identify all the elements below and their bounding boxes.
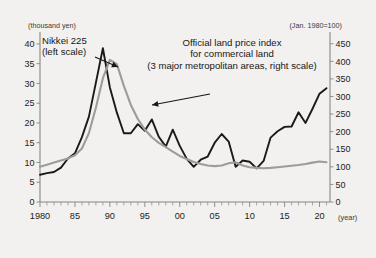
right-axis-tick-label: 150 (336, 144, 351, 154)
left-axis-tick-label: 40 (24, 39, 34, 49)
x-axis-tick-label: 20 (314, 211, 324, 221)
right-axis-tick-label: 300 (336, 92, 351, 102)
x-axis-unit-label: (year) (338, 213, 357, 222)
right-axis-unit-label: (Jan. 1980=100) (289, 21, 342, 30)
right-axis-tick-label: 100 (336, 162, 351, 172)
left-axis-unit-label: (thousand yen) (28, 21, 76, 30)
left-axis-tick-label: 35 (24, 59, 34, 69)
right-axis-tick-label: 350 (336, 74, 351, 84)
x-axis-tick-label: 1980 (30, 211, 50, 221)
left-axis-tick-label: 0 (29, 197, 34, 207)
x-axis-tick-label: 00 (175, 211, 185, 221)
left-axis-tick-label: 5 (29, 177, 34, 187)
x-axis-tick-label: 15 (279, 211, 289, 221)
right-axis-tick-label: 50 (336, 180, 346, 190)
right-axis-tick-label: 400 (336, 57, 351, 67)
right-axis-tick-label: 0 (336, 197, 341, 207)
chart-figure: 0510152025303540050100150200250300350400… (0, 0, 376, 258)
land-price-nikkei-chart: 0510152025303540050100150200250300350400… (0, 0, 376, 258)
annotation-label: (3 major metropolitan areas, right scale… (147, 60, 317, 71)
left-axis-tick-label: 30 (24, 79, 34, 89)
left-axis-tick-label: 25 (24, 98, 34, 108)
x-axis-tick-label: 85 (70, 211, 80, 221)
right-axis-tick-label: 450 (336, 39, 351, 49)
left-axis-tick-label: 20 (24, 118, 34, 128)
left-axis-tick-label: 10 (24, 158, 34, 168)
right-axis-tick-label: 200 (336, 127, 351, 137)
x-axis-tick-label: 90 (105, 211, 115, 221)
x-axis-tick-label: 05 (210, 211, 220, 221)
x-axis-tick-label: 10 (245, 211, 255, 221)
annotation-label: (left scale) (42, 46, 86, 57)
annotation-label: for commercial land (190, 48, 274, 59)
x-axis-tick-label: 95 (140, 211, 150, 221)
annotation-label: Official land price index (182, 37, 281, 48)
annotation-label: Nikkei 225 (42, 35, 87, 46)
right-axis-tick-label: 250 (336, 109, 351, 119)
left-axis-tick-label: 15 (24, 138, 34, 148)
